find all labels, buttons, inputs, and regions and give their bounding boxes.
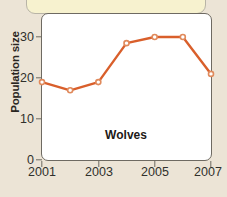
data-point-2007: [209, 71, 214, 76]
data-point-2005: [152, 35, 157, 40]
series-label-wolves: Wolves: [105, 128, 147, 142]
wolves-population-figure: Population size 30 20 10 0 2001 2003 200…: [0, 0, 227, 197]
data-point-2001: [40, 80, 45, 85]
data-point-2006: [180, 35, 185, 40]
data-point-2003: [96, 80, 101, 85]
data-point-2002: [68, 88, 73, 93]
data-series-svg: [0, 0, 227, 197]
data-point-2004: [124, 41, 129, 46]
